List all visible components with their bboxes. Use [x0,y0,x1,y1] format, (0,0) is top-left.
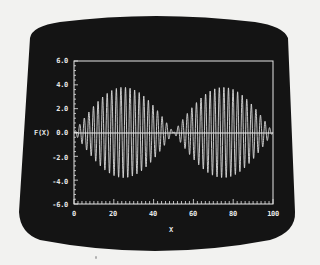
x-tick-label: 60 [183,210,203,218]
x-tick-label: 100 [263,210,283,218]
x-tick-label: 0 [64,210,84,218]
y-axis-title: F(X) [34,129,50,137]
y-tick-label: -6.0 [46,201,68,209]
x-tick-label: 80 [223,210,243,218]
photo-speck [95,256,97,259]
x-tick-label: 40 [143,210,163,218]
y-tick-label: 2.0 [46,105,68,113]
y-tick-label: -4.0 [46,178,68,186]
x-tick-label: 20 [103,210,123,218]
x-axis-title: X [169,226,173,234]
y-tick-label: -2.0 [46,154,68,162]
y-tick-label: 4.0 [46,81,68,89]
y-tick-label: 6.0 [46,57,68,65]
